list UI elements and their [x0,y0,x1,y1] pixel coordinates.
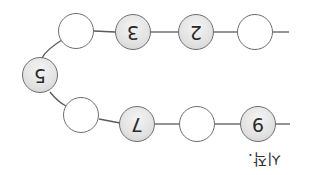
node-value: 7 [131,115,143,134]
node-value: 3 [127,23,139,42]
node-value: 9 [252,115,264,134]
node-bottom-2: 7 [119,106,155,142]
number-chain-diagram: 3 2 5 7 9 시작. [0,0,310,175]
node-top-4-empty [237,14,273,50]
node-top-3: 2 [178,14,214,50]
start-caption: 시작. [248,150,281,171]
node-top-1-empty [58,13,94,49]
node-bottom-4: 9 [240,106,276,142]
node-top-2: 3 [115,14,151,50]
node-bottom-3-empty [179,106,215,142]
node-bottom-1-empty [63,97,99,133]
node-value: 5 [34,66,46,85]
node-left: 5 [22,57,58,93]
node-value: 2 [190,23,202,42]
